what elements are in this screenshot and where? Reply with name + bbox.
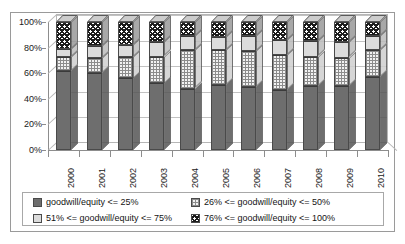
bar-segment[interactable] (365, 50, 380, 77)
x-axis-labels: 2000200120022003200420052006200720082009… (48, 158, 400, 192)
bar-segment[interactable] (87, 46, 102, 58)
bar-segment[interactable] (303, 22, 318, 41)
bar-group[interactable] (334, 22, 349, 150)
bar-segment[interactable] (211, 50, 226, 85)
x-axis-tick-label: 2005 (222, 168, 231, 188)
bar-group[interactable] (241, 22, 256, 150)
bar-segment-side-face (226, 43, 233, 84)
y-axis-tick (42, 150, 46, 151)
bar-segment[interactable] (149, 42, 164, 56)
bar-column (365, 22, 380, 150)
x-axis-tick-label: 2002 (129, 168, 138, 188)
legend-label: 26% <= goodwill/equity <= 50% (204, 197, 330, 207)
x-axis-tick-label: 2009 (346, 168, 355, 188)
bar-segment[interactable] (56, 71, 71, 150)
bar-column (211, 22, 226, 150)
bar-segment-side-face (287, 83, 294, 150)
chart-legend: goodwill/equity <= 25% 26% <= goodwill/e… (22, 192, 384, 226)
bar-segment-side-face (133, 72, 140, 150)
bar-segment[interactable] (272, 90, 287, 150)
bar-segment[interactable] (56, 22, 71, 49)
legend-label: 76% <= goodwill/equity <= 100% (204, 213, 335, 223)
legend-swatch-icon (33, 198, 42, 207)
bar-segment[interactable] (180, 36, 195, 50)
y-axis-tick-label: 100% (19, 18, 42, 27)
bar-segment[interactable] (272, 55, 287, 90)
bar-segment[interactable] (118, 45, 133, 57)
bar-segment[interactable] (118, 78, 133, 150)
legend-item-goodwill-51-75[interactable]: 51% <= goodwill/equity <= 75% (33, 210, 172, 226)
legend-row-2: 51% <= goodwill/equity <= 75% 76% <= goo… (23, 210, 383, 226)
x-axis-tick-label: 2010 (377, 168, 386, 188)
bar-segment[interactable] (149, 83, 164, 150)
bar-segment-side-face (380, 70, 387, 150)
bar-segment[interactable] (56, 57, 71, 71)
legend-label: 51% <= goodwill/equity <= 75% (46, 213, 172, 223)
legend-item-goodwill-le-25[interactable]: goodwill/equity <= 25% (33, 194, 139, 210)
y-axis-tick-label: 0% (29, 146, 42, 155)
legend-swatch-icon (191, 198, 200, 207)
legend-swatch-icon (191, 214, 200, 223)
bar-segment[interactable] (303, 41, 318, 56)
bar-segment-side-face (256, 81, 263, 150)
bar-group[interactable] (118, 22, 133, 150)
bar-group[interactable] (180, 22, 195, 150)
x-axis-tick-label: 2006 (253, 168, 262, 188)
bar-group[interactable] (365, 22, 380, 150)
bar-segment[interactable] (334, 86, 349, 150)
bar-segment[interactable] (211, 37, 226, 50)
legend-item-goodwill-26-50[interactable]: 26% <= goodwill/equity <= 50% (191, 194, 330, 210)
x-axis-tick-label: 2003 (160, 168, 169, 188)
y-axis-tick (42, 48, 46, 49)
bar-group[interactable] (211, 22, 226, 150)
bar-segment[interactable] (211, 22, 226, 37)
bar-group[interactable] (149, 22, 164, 150)
bar-segment-side-face (164, 77, 171, 150)
bar-segment[interactable] (241, 51, 256, 87)
bar-group[interactable] (87, 22, 102, 150)
bar-segment[interactable] (365, 22, 380, 36)
bar-segment[interactable] (241, 22, 256, 36)
bar-segment[interactable] (272, 40, 287, 55)
bar-segment-side-face (226, 78, 233, 150)
bar-group[interactable] (56, 22, 71, 150)
bar-group[interactable] (303, 22, 318, 150)
bar-column (56, 22, 71, 150)
y-axis-tick-label: 20% (24, 120, 42, 129)
bar-segment[interactable] (241, 36, 256, 51)
bar-segment[interactable] (334, 58, 349, 86)
y-axis-tick-label: 60% (24, 69, 42, 78)
bar-segment[interactable] (149, 22, 164, 42)
x-axis-tick (172, 150, 173, 157)
bar-segment[interactable] (334, 22, 349, 42)
bar-segment[interactable] (180, 50, 195, 88)
bar-segment[interactable] (149, 57, 164, 84)
bar-column (303, 22, 318, 150)
bar-segment[interactable] (241, 87, 256, 150)
bar-segment[interactable] (87, 58, 102, 73)
bar-column (180, 22, 195, 150)
bar-segment[interactable] (180, 89, 195, 150)
bar-segment[interactable] (180, 22, 195, 36)
bar-segment-side-face (102, 66, 109, 150)
bar-segment[interactable] (365, 77, 380, 150)
x-axis-tick-label: 2000 (67, 168, 76, 188)
x-axis-tick-label: 2008 (315, 168, 324, 188)
x-axis-tick (110, 150, 111, 157)
legend-item-goodwill-76-100[interactable]: 76% <= goodwill/equity <= 100% (191, 210, 335, 226)
y-axis-tick (42, 73, 46, 74)
x-axis-line (48, 150, 388, 151)
bar-segment[interactable] (303, 57, 318, 86)
bar-segment[interactable] (118, 22, 133, 45)
bar-segment[interactable] (365, 36, 380, 50)
bar-group[interactable] (272, 22, 287, 150)
bar-segment[interactable] (87, 22, 102, 46)
bar-segment[interactable] (272, 22, 287, 40)
bar-segment[interactable] (303, 86, 318, 150)
bar-segment[interactable] (87, 73, 102, 150)
bar-segment[interactable] (334, 42, 349, 57)
bar-segment[interactable] (118, 57, 133, 79)
bar-segment-side-face (349, 79, 356, 150)
bar-segment[interactable] (56, 49, 71, 57)
bar-segment[interactable] (211, 85, 226, 150)
